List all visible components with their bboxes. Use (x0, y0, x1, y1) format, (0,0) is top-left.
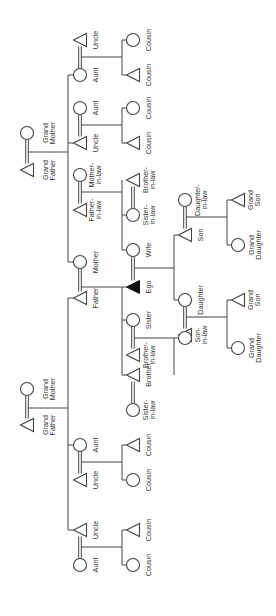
mother-in-law-label: Mother-in-law (87, 162, 104, 187)
label-text: Father (91, 287, 100, 308)
mgf-label: GrandFather (41, 159, 58, 180)
label-text: in-law (148, 170, 157, 190)
cousin-triangle-icon (127, 524, 140, 537)
paternal-uncle-2-triangle-icon (74, 524, 87, 537)
maternal-aunt-1-circle-icon (74, 69, 87, 82)
paternal-uncle-2-label: Uncle (91, 521, 100, 539)
maternal-uncle-2-label: Uncle (91, 134, 100, 152)
label-text: Aunt (91, 68, 100, 83)
person-symbols (21, 34, 245, 572)
paternal-grandfather-triangle-icon (21, 419, 34, 432)
grand-son-triangle-icon (232, 294, 245, 307)
cousin-label: Cousin (144, 434, 153, 456)
paternal-aunt-2-circle-icon (74, 559, 87, 572)
label-text: Cousin (144, 29, 153, 51)
grand-daughter-label: GrandDaughter (247, 333, 264, 363)
label-text: Father (48, 159, 57, 180)
label-text: Cousin (144, 132, 153, 154)
grand-daughter-label: GrandDaughter (247, 230, 264, 260)
brother-in-law-label: Brother-in-law (141, 166, 158, 193)
label-text: in-law (200, 190, 209, 210)
cousin-label: Cousin (144, 29, 153, 51)
maternal-grandfather-triangle-icon (21, 164, 34, 177)
label-text: Uncle (91, 521, 100, 539)
maternal-aunt-2-circle-icon (74, 102, 87, 115)
maternal-grandmother-circle-icon (21, 127, 34, 140)
paternal-aunt-1-label: Aunt (91, 438, 100, 453)
label-text: Uncle (91, 31, 100, 49)
cousin-label: Cousin (144, 554, 153, 576)
pgm-label: GrandMother (41, 377, 58, 400)
cousin-label: Cousin (144, 519, 153, 541)
father-label: Father (91, 287, 100, 308)
brother-in-law-triangle-icon (127, 174, 140, 187)
label-text: Cousin (144, 434, 153, 456)
label-text: Aunt (91, 438, 100, 453)
father-in-law-triangle-icon (74, 204, 87, 217)
label-text: Aunt (91, 101, 100, 116)
daughter-in-law-circle-icon (179, 194, 192, 207)
paternal-aunt-2-label: Aunt (91, 558, 100, 573)
son-label: Son (196, 229, 205, 242)
grand-daughter-circle-icon (232, 239, 245, 252)
paternal-grandmother-circle-icon (21, 383, 34, 396)
label-text: Daughter (196, 285, 205, 315)
wife-label: Wife (144, 243, 153, 257)
label-text: in-law (148, 400, 157, 420)
grand-son-label: GrandSon (246, 290, 263, 310)
label-text: Mother (91, 250, 100, 273)
sister-in-law-label: Sister-in-law (141, 204, 158, 225)
maternal-uncle-1-triangle-icon (74, 34, 87, 47)
label-text: Daughter (254, 230, 263, 260)
maternal-uncle-1-label: Uncle (91, 31, 100, 49)
sister-in-law-circle-icon (127, 209, 140, 222)
wife-circle-icon (127, 244, 140, 257)
label-text: Mother (48, 121, 57, 144)
paternal-aunt-1-circle-icon (74, 439, 87, 452)
label-text: Cousin (144, 554, 153, 576)
mother-in-law-circle-icon (74, 169, 87, 182)
label-text: Cousin (144, 64, 153, 86)
ego-triangle-icon (127, 281, 140, 294)
label-text: Ego (144, 281, 153, 294)
brother-triangle-icon (127, 369, 140, 382)
cousin-circle-icon (127, 102, 140, 115)
cousin-circle-icon (127, 34, 140, 47)
maternal-uncle-2-triangle-icon (74, 137, 87, 150)
cousin-label: Cousin (144, 97, 153, 119)
sister-circle-icon (127, 314, 140, 327)
label-text: in-law (148, 205, 157, 225)
paternal-uncle-1-triangle-icon (74, 474, 87, 487)
paternal-uncle-1-label: Uncle (91, 471, 100, 489)
cousin-circle-icon (127, 559, 140, 572)
label-text: in-law (200, 325, 209, 345)
label-text: Cousin (144, 519, 153, 541)
label-text: Wife (144, 243, 153, 257)
kinship-diagram: GrandMotherGrandFatherAuntUncleCousinCou… (0, 0, 276, 616)
maternal-aunt-2-label: Aunt (91, 101, 100, 116)
cousin-circle-icon (127, 474, 140, 487)
label-text: Cousin (144, 97, 153, 119)
maternal-aunt-1-label: Aunt (91, 68, 100, 83)
son-in-law-label: Son-in-law (193, 325, 210, 345)
cousin-label: Cousin (144, 64, 153, 86)
brother-in-law-sister-triangle-icon (127, 349, 140, 362)
grand-daughter-circle-icon (232, 342, 245, 355)
grand-son-triangle-icon (232, 194, 245, 207)
label-text: Aunt (91, 558, 100, 573)
label-text: in-law (148, 345, 157, 365)
daughter-in-law-label: Daughter-in-law (193, 183, 210, 216)
daughter-circle-icon (179, 294, 192, 307)
son-triangle-icon (179, 229, 192, 242)
mother-circle-icon (74, 256, 87, 269)
niece-hidden-circle-icon (179, 332, 192, 345)
label-text: Son (253, 194, 262, 207)
label-text: Cousin (144, 469, 153, 491)
label-text: Son (196, 229, 205, 242)
sister-in-law-brother-circle-icon (127, 404, 140, 417)
ego-label: Ego (144, 281, 153, 294)
brother-label: Brother (144, 363, 153, 387)
label-text: Uncle (91, 471, 100, 489)
mother-label: Mother (91, 250, 100, 273)
cousin-triangle-icon (127, 69, 140, 82)
